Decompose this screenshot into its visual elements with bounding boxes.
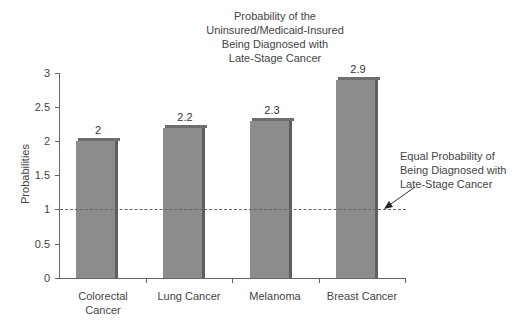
y-tick bbox=[55, 244, 59, 245]
bar-side-face bbox=[202, 128, 205, 278]
y-tick-label: 0 bbox=[10, 272, 50, 284]
y-tick bbox=[55, 141, 59, 142]
value-label: 2.2 bbox=[160, 111, 210, 123]
bar-top-face bbox=[78, 138, 120, 141]
title-line-2: Uninsured/Medicaid-Insured bbox=[150, 23, 400, 37]
x-tick bbox=[319, 278, 320, 283]
y-tick-label: 1 bbox=[10, 203, 50, 215]
y-tick bbox=[55, 107, 59, 108]
x-tick bbox=[232, 278, 233, 283]
y-tick-label: 2 bbox=[10, 135, 50, 147]
x-tick bbox=[146, 278, 147, 283]
y-tick bbox=[55, 73, 59, 74]
x-category-label-line: Melanoma bbox=[232, 289, 318, 303]
y-axis bbox=[59, 73, 60, 278]
x-category-label-line: Colorectal bbox=[60, 289, 146, 303]
y-tick bbox=[55, 278, 59, 279]
chart-title: Probability of the Uninsured/Medicaid-In… bbox=[150, 9, 400, 65]
bar-side-face bbox=[375, 80, 378, 278]
x-category-label-line: Lung Cancer bbox=[146, 289, 232, 303]
value-label: 2.3 bbox=[247, 104, 297, 116]
x-tick bbox=[405, 278, 406, 283]
x-category-label: Melanoma bbox=[232, 289, 318, 303]
bar-top-face bbox=[165, 125, 207, 128]
equal-probability-reference-line bbox=[60, 209, 406, 210]
x-category-label: Colorectal Cancer bbox=[60, 289, 146, 317]
annotation-line: Being Diagnosed with bbox=[400, 163, 506, 177]
bar-top-face bbox=[252, 118, 294, 121]
annotation-arrow-icon bbox=[380, 185, 420, 215]
x-category-label-line: Breast Cancer bbox=[319, 289, 405, 303]
y-tick-label: 1.5 bbox=[10, 169, 50, 181]
title-line-3: Being Diagnosed with bbox=[150, 37, 400, 51]
y-tick bbox=[55, 209, 59, 210]
title-line-1: Probability of the bbox=[150, 9, 400, 23]
y-tick-label: 3 bbox=[10, 67, 50, 79]
x-category-label-line: Cancer bbox=[60, 303, 146, 317]
bar-side-face bbox=[289, 121, 292, 278]
bar-lung-cancer bbox=[163, 128, 205, 278]
bar-top-face bbox=[338, 77, 380, 80]
x-category-label: Lung Cancer bbox=[146, 289, 232, 303]
annotation-line: Equal Probability of bbox=[400, 149, 506, 163]
y-tick-label: 0.5 bbox=[10, 238, 50, 250]
bar-melanoma bbox=[250, 121, 292, 278]
x-category-label: Breast Cancer bbox=[319, 289, 405, 303]
bar-breast-cancer bbox=[336, 80, 378, 278]
y-tick-label: 2.5 bbox=[10, 101, 50, 113]
value-label: 2 bbox=[73, 124, 123, 136]
value-label: 2.9 bbox=[333, 63, 383, 75]
y-tick bbox=[55, 175, 59, 176]
